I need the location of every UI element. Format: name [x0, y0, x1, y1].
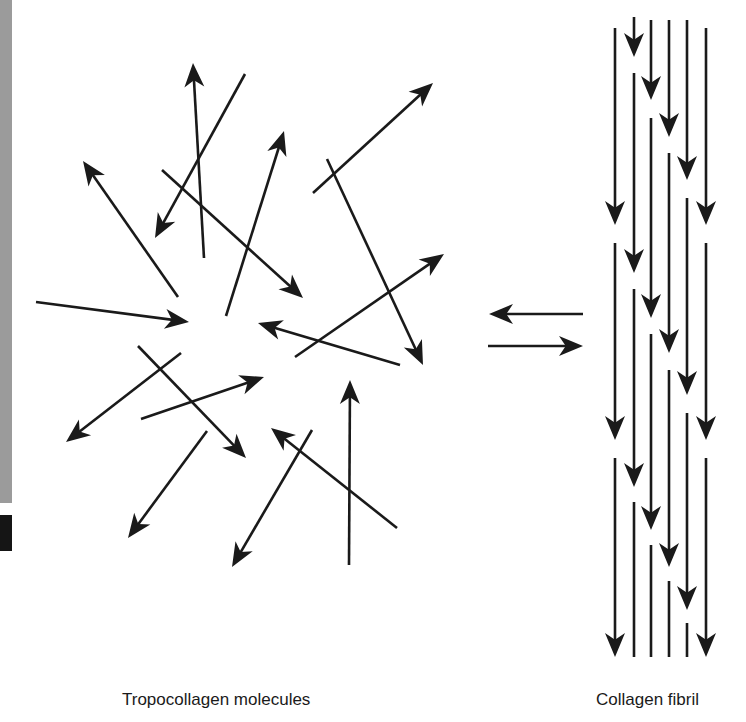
fibril-molecule-arrow [641, 20, 661, 100]
arrowhead-icon [271, 428, 296, 451]
collagen-fibril-group [605, 17, 716, 657]
fibril-molecule-arrow [659, 153, 679, 353]
arrow-shaft [239, 430, 312, 555]
tropocollagen-molecule-arrow [128, 431, 207, 538]
fibril-molecule-arrow [624, 73, 644, 273]
tropocollagen-molecule-arrow [226, 131, 286, 316]
fibril-molecule-arrow [605, 458, 625, 657]
arrow-shaft [349, 394, 350, 565]
tropocollagen-molecule-arrow [258, 320, 400, 365]
tropocollagen-label: Tropocollagen molecules [122, 690, 310, 710]
tropocollagen-molecule-arrow [313, 83, 433, 193]
fibril-molecule-arrow [696, 458, 716, 657]
arrow-shaft [138, 346, 236, 448]
arrowhead-icon [66, 419, 91, 442]
fibril-molecule-arrow [641, 334, 661, 530]
fibril-molecule-arrow [659, 370, 679, 567]
arrow-shaft [162, 170, 292, 288]
tropocollagen-molecule-arrow [327, 159, 423, 365]
arrowhead-icon [419, 254, 444, 276]
arrow-shaft [194, 77, 204, 258]
fibril-molecule-arrow [624, 289, 644, 487]
fibril-molecule-arrow [624, 17, 644, 57]
arrowhead-icon [128, 513, 150, 538]
tropocollagen-molecule-arrow [155, 74, 245, 238]
arrow-shaft [226, 145, 280, 316]
fibril-molecule-arrow [696, 28, 716, 225]
fibril-molecule-arrow [696, 243, 716, 440]
reverse-arrow-icon [489, 304, 583, 324]
arrow-shaft [327, 159, 417, 352]
arrow-shaft [77, 353, 181, 433]
fibril-molecule-arrow [677, 20, 697, 180]
arrow-shaft [272, 327, 400, 365]
arrow-shaft [137, 431, 207, 526]
arrow-shaft [162, 74, 245, 225]
fibril-molecule-arrow [677, 413, 697, 610]
tropocollagen-molecule-arrow [66, 353, 181, 442]
collagen-fibril-label: Collagen fibril [596, 690, 699, 710]
arrow-shaft [91, 173, 178, 297]
arrow-shaft [36, 302, 175, 320]
equilibrium-arrows [488, 304, 583, 356]
tropocollagen-molecules-group [36, 63, 444, 567]
fibril-molecule-arrow [677, 198, 697, 395]
fibril-molecule-arrow [641, 118, 661, 318]
tropocollagen-molecule-arrow [184, 63, 204, 258]
tropocollagen-molecule-arrow [271, 428, 397, 528]
arrow-shaft [313, 93, 422, 193]
arrowhead-icon [155, 212, 175, 238]
fibril-molecule-arrow [659, 20, 679, 137]
tropocollagen-molecule-arrow [340, 380, 360, 565]
forward-arrow-icon [488, 336, 583, 356]
fibril-molecule-arrow [605, 243, 625, 440]
collagen-assembly-diagram [0, 0, 746, 722]
arrow-shaft [141, 382, 250, 419]
tropocollagen-molecule-arrow [36, 302, 189, 329]
arrowhead-icon [232, 541, 253, 567]
tropocollagen-molecule-arrow [162, 170, 303, 298]
arrow-shaft [282, 437, 397, 528]
arrowhead-icon [83, 161, 105, 186]
fibril-molecule-arrow [605, 28, 625, 225]
